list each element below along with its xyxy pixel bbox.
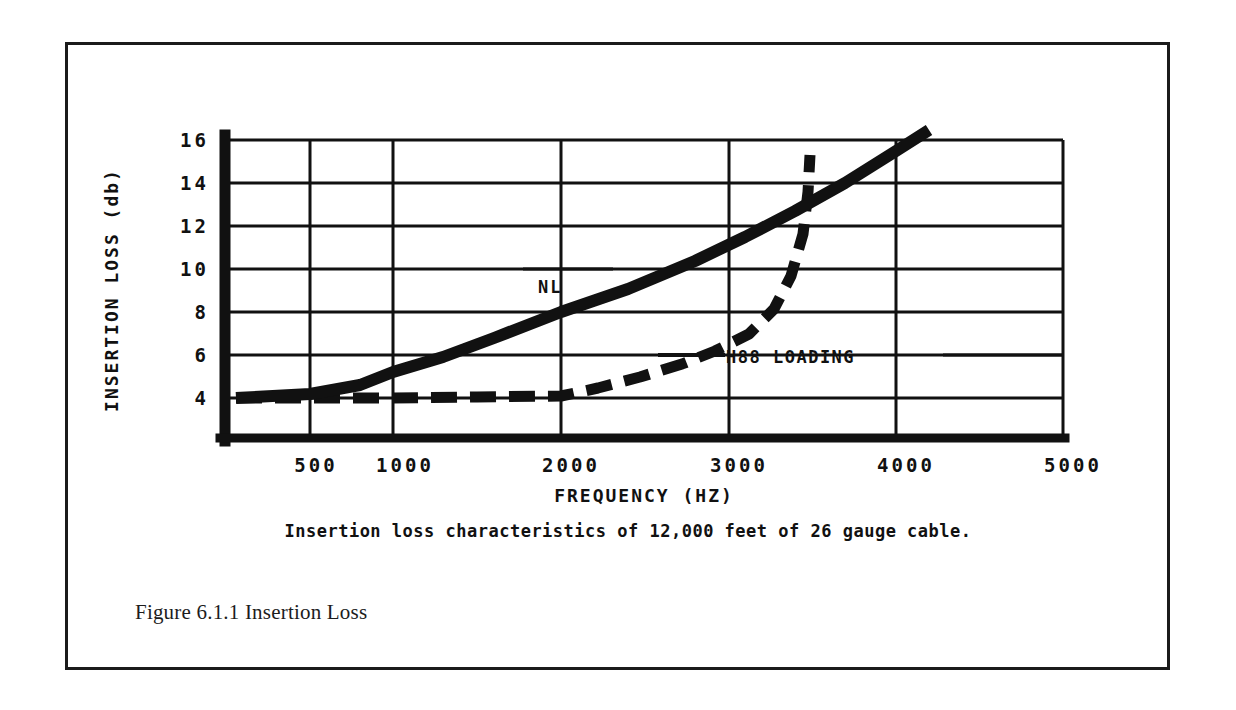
y-tick-10: 10 (180, 258, 209, 280)
grid-horizontal-lines (223, 140, 1063, 398)
figure-label: Figure 6.1.1 Insertion Loss (135, 600, 367, 625)
x-tick-4000: 4000 (877, 454, 935, 476)
y-tick-6: 6 (195, 344, 209, 366)
nl-label: NL (538, 277, 562, 297)
x-axis-title: FREQUENCY (HZ) (554, 485, 734, 506)
x-tick-5000: 5000 (1044, 454, 1102, 476)
figure-border: NL H88 LOADING 16 14 12 10 8 6 4 50 (65, 42, 1170, 670)
y-axis-title: INSERTION LOSS (db) (101, 168, 122, 412)
chart-area: NL H88 LOADING 16 14 12 10 8 6 4 50 (68, 45, 1173, 673)
x-tick-labels: 500 1000 2000 3000 4000 5000 (294, 454, 1102, 476)
y-tick-labels: 16 14 12 10 8 6 4 (180, 129, 209, 409)
x-tick-1000: 1000 (376, 454, 434, 476)
x-tick-500: 500 (294, 454, 337, 476)
y-tick-14: 14 (180, 172, 209, 194)
y-tick-12: 12 (180, 215, 209, 237)
y-tick-4: 4 (195, 387, 209, 409)
y-tick-8: 8 (195, 301, 209, 323)
series-h88-loading (236, 155, 810, 398)
plot-caption: Insertion loss characteristics of 12,000… (284, 521, 971, 541)
x-tick-3000: 3000 (710, 454, 768, 476)
x-tick-2000: 2000 (542, 454, 600, 476)
insertion-loss-chart: NL H88 LOADING 16 14 12 10 8 6 4 50 (68, 45, 1173, 673)
scanned-page: NL H88 LOADING 16 14 12 10 8 6 4 50 (0, 0, 1236, 710)
h88-label: H88 LOADING (726, 347, 855, 367)
y-tick-16: 16 (180, 129, 209, 151)
